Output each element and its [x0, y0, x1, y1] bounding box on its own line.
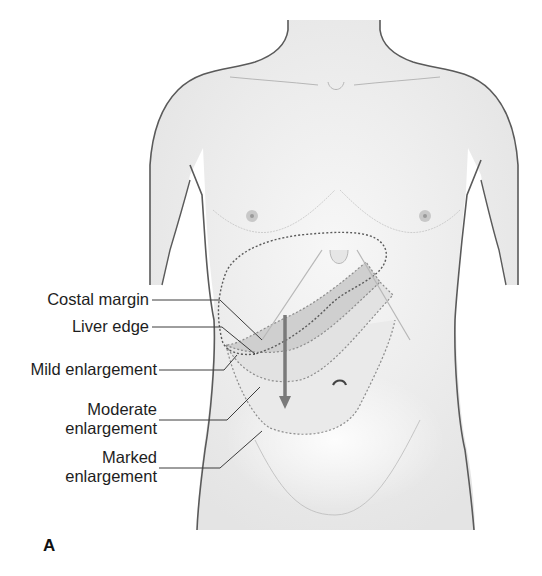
label-moderate-line2: enlargement	[65, 419, 157, 438]
label-marked-line1: Marked	[65, 448, 157, 467]
label-marked-enlargement: Marked enlargement	[65, 448, 157, 486]
label-liver-edge: Liver edge	[72, 317, 149, 336]
label-moderate-enlargement: Moderate enlargement	[65, 400, 157, 438]
label-marked-line2: enlargement	[65, 467, 157, 486]
label-moderate-line1: Moderate	[65, 400, 157, 419]
liver-enlargement-diagram	[0, 0, 542, 576]
torso	[150, 20, 518, 530]
label-costal-margin: Costal margin	[47, 290, 149, 309]
panel-letter: A	[43, 536, 55, 556]
label-mild-enlargement: Mild enlargement	[30, 360, 157, 379]
